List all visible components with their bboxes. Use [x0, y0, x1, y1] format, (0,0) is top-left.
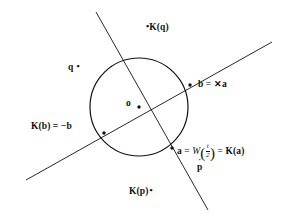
steep-secant-line [96, 12, 208, 210]
label-K-of-p: K(p)• [129, 186, 153, 196]
point-a [170, 146, 173, 149]
bullet-icon: • [149, 185, 152, 195]
label-b-equals-chi-a: b = ✕a [198, 80, 227, 90]
label-a-equals-2: = [215, 146, 225, 156]
point-b [188, 83, 191, 86]
fraction-denominator: 2 [206, 151, 210, 160]
point-o [137, 105, 140, 108]
label-K-of-p-text: K(p) [129, 186, 148, 196]
fraction-numerator: t [206, 143, 210, 151]
label-K-of-q: •K(q) [146, 22, 169, 32]
label-b-rhs: a [222, 79, 227, 89]
label-q: q• [68, 62, 80, 72]
point-Kb [102, 131, 105, 134]
label-K-of-b-text: K(b) = −b [31, 121, 72, 131]
overdot-icon: ˙ [198, 158, 201, 167]
label-p-dot: ˙p [197, 163, 202, 173]
geometric-figure: •K(q) q• b = ✕a K(b) = −b a = W( t 2 ) =… [0, 0, 284, 223]
label-origin: o [126, 99, 131, 109]
chi-operator-icon: ✕ [214, 79, 222, 89]
bullet-icon: • [76, 61, 79, 71]
label-a-equals-W-of-t-over-2: a = W( t 2 ) = K(a) [177, 143, 244, 161]
label-K-of-b: K(b) = −b [31, 122, 72, 132]
p-with-overdot: ˙p [197, 163, 202, 173]
label-K-of-q-text: K(q) [149, 22, 168, 32]
label-a-rhs: K(a) [226, 146, 245, 156]
label-origin-text: o [126, 98, 131, 108]
label-b-equals: = [203, 79, 213, 89]
label-q-text: q [68, 62, 73, 72]
label-a-equals-1: = [182, 146, 192, 156]
